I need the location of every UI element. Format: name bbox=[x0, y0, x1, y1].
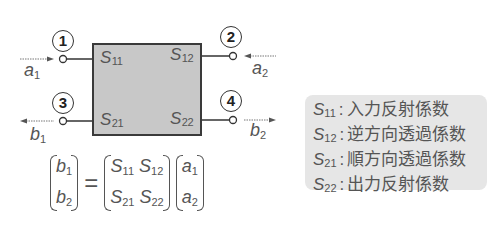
terminal-port-2 bbox=[230, 53, 237, 60]
legend-item-s21: S21:順方向透過係数 bbox=[313, 149, 487, 174]
legend-item-s11: S11:入力反射係数 bbox=[313, 99, 487, 124]
box-label-s11: S11 bbox=[100, 48, 122, 68]
s-matrix: S11 S12 S21 S22 bbox=[104, 153, 170, 213]
s22-sub: 22 bbox=[182, 116, 193, 128]
legend-colon: : bbox=[340, 125, 345, 144]
a2-sub: 2 bbox=[262, 67, 268, 79]
signal-b2: b2 bbox=[250, 120, 266, 141]
s-parameter-equation: b1 b2 = S11 S12 S21 S22 a1 a2 bbox=[50, 152, 204, 214]
s12-sub: 12 bbox=[182, 52, 193, 64]
legend-colon: : bbox=[340, 150, 345, 169]
b1-sub: 1 bbox=[66, 165, 72, 177]
a1-main: a bbox=[24, 60, 34, 80]
terminal-port-4 bbox=[230, 117, 237, 124]
arrow-b1-icon bbox=[20, 119, 54, 124]
s22-main: S bbox=[139, 187, 151, 207]
a2-main: a bbox=[252, 58, 262, 78]
signal-a2: a2 bbox=[252, 58, 268, 79]
a2-sub: 2 bbox=[192, 196, 198, 208]
s12-main: S bbox=[170, 45, 181, 64]
vector-b: b1 b2 bbox=[50, 153, 78, 213]
a1-main: a bbox=[182, 156, 192, 176]
a2-main: a bbox=[182, 187, 192, 207]
s21-main: S bbox=[110, 187, 122, 207]
s21-sub: 21 bbox=[112, 117, 123, 129]
port-3-badge: 3 bbox=[52, 92, 74, 114]
box-label-s12: S12 bbox=[170, 45, 193, 65]
legend-item-s22: S22:出力反射係数 bbox=[313, 174, 487, 199]
s11-main: S bbox=[100, 48, 111, 67]
b1-sub: 1 bbox=[40, 133, 46, 145]
box-label-s21: S21 bbox=[100, 110, 123, 130]
s21-sub: 21 bbox=[122, 196, 134, 208]
legend-s11-text: 入力反射係数 bbox=[347, 100, 449, 119]
s12-sub: 12 bbox=[151, 165, 163, 177]
terminal-port-3 bbox=[60, 118, 67, 125]
b1-main: b bbox=[56, 156, 66, 176]
legend-s21-sub: 21 bbox=[324, 157, 336, 169]
legend-s22-main: S bbox=[313, 175, 324, 194]
port-1-badge: 1 bbox=[52, 30, 74, 52]
s-matrix-row-1: S11 S12 bbox=[110, 153, 164, 184]
a1-sub: 1 bbox=[192, 165, 198, 177]
b2-sub: 2 bbox=[260, 129, 266, 141]
legend-item-s12: S12:逆方向透過係数 bbox=[313, 124, 487, 149]
equals-sign: = bbox=[84, 169, 98, 197]
legend-s12-main: S bbox=[313, 125, 324, 144]
legend-s21-text: 順方向透過係数 bbox=[347, 150, 466, 169]
signal-a1: a1 bbox=[24, 60, 40, 81]
s-parameter-legend: S11:入力反射係数 S12:逆方向透過係数 S21:順方向透過係数 S22:出… bbox=[305, 95, 487, 190]
a1-sub: 1 bbox=[34, 69, 40, 81]
port-4-badge: 4 bbox=[220, 90, 242, 112]
vector-a-row-1: a1 bbox=[182, 153, 198, 184]
s22-sub: 22 bbox=[151, 196, 163, 208]
s-matrix-row-2: S21 S22 bbox=[110, 184, 164, 215]
legend-colon: : bbox=[339, 100, 344, 119]
s12-main: S bbox=[139, 156, 151, 176]
vector-b-row-1: b1 bbox=[56, 153, 72, 184]
legend-colon: : bbox=[340, 175, 345, 194]
s11-sub: 11 bbox=[123, 165, 134, 177]
b2-main: b bbox=[56, 187, 66, 207]
vector-a-row-2: a2 bbox=[182, 184, 198, 215]
legend-s22-sub: 22 bbox=[324, 182, 336, 194]
b2-main: b bbox=[250, 120, 260, 140]
legend-s11-main: S bbox=[313, 100, 324, 119]
legend-s12-sub: 12 bbox=[324, 132, 336, 144]
vector-a: a1 a2 bbox=[176, 153, 204, 213]
b1-main: b bbox=[30, 124, 40, 144]
legend-s12-text: 逆方向透過係数 bbox=[347, 125, 466, 144]
vector-b-row-2: b2 bbox=[56, 184, 72, 215]
s21-main: S bbox=[100, 110, 111, 129]
legend-s21-main: S bbox=[313, 150, 324, 169]
terminal-port-1 bbox=[60, 56, 67, 63]
signal-b1: b1 bbox=[30, 124, 46, 145]
legend-s22-text: 出力反射係数 bbox=[347, 175, 449, 194]
legend-s11-sub: 11 bbox=[324, 107, 335, 119]
s22-main: S bbox=[170, 109, 181, 128]
b2-sub: 2 bbox=[66, 196, 72, 208]
box-label-s22: S22 bbox=[170, 109, 193, 129]
port-2-badge: 2 bbox=[220, 26, 242, 48]
s11-main: S bbox=[111, 156, 123, 176]
s11-sub: 11 bbox=[112, 55, 122, 67]
